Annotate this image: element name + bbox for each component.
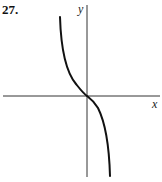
- x-axis-label: x: [152, 98, 157, 110]
- y-axis-label: y: [78, 3, 83, 15]
- graph-plot: [0, 0, 162, 182]
